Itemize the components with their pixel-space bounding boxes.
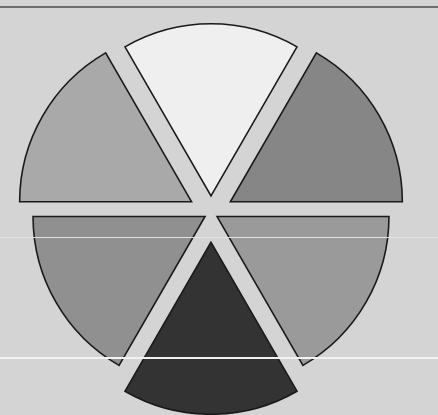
exploded-pie-chart: [0, 0, 438, 415]
figure-canvas: [0, 0, 438, 415]
pie-slice-group: [20, 24, 403, 414]
